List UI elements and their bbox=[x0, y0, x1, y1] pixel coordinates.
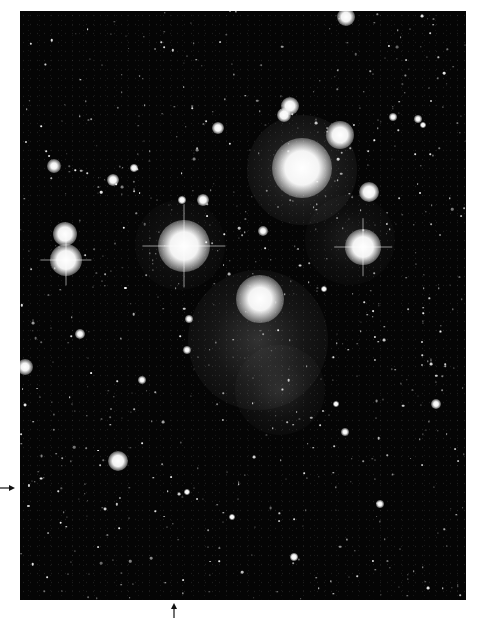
pleiades-photograph bbox=[20, 11, 466, 600]
film-grain bbox=[20, 11, 466, 600]
left-arrow-icon bbox=[0, 484, 16, 492]
bottom-arrow-icon bbox=[170, 603, 178, 618]
